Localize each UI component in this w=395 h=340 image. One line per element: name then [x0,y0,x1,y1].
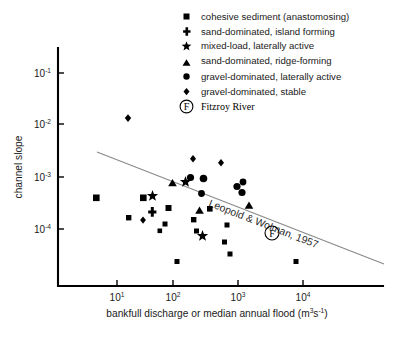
y-axis-title: channel slope [13,135,24,198]
data-point-square [163,222,168,227]
data-point-f-letter: F [269,228,275,239]
data-point-star [147,190,158,201]
data-point-square [222,240,227,245]
legend-label: sand-dominated, ridge-forming [201,55,332,66]
y-tick-label: 10-1 [34,67,51,79]
legend-label: gravel-dominated, stable [201,86,306,97]
legend-label: gravel-dominated, laterally active [201,71,341,82]
x-axis-title: bankfull discharge or median annual floo… [106,307,327,319]
x-tick-label: 101 [110,291,125,303]
data-point-square [294,259,299,264]
data-point-circle [238,189,245,196]
figure-panel: cohesive sediment (anastomosing) sand-do… [0,0,395,340]
y-tick-label: 10-4 [34,223,51,235]
triangle-icon [183,59,191,66]
legend-item-fitzroy-river: F Fitzroy River [180,100,255,113]
series-gravel-laterally-active [187,174,247,197]
data-point-square [194,229,199,234]
plus-icon [183,27,190,36]
diamond-icon [184,88,190,95]
y-tick-label: 10-3 [34,171,51,183]
data-point-square [158,229,163,234]
reference-line-group: Leopold & Wolman, 1957 [97,152,384,264]
data-point-square [207,206,213,212]
data-point-circle [233,183,240,190]
x-axis-tick-labels: 101 102 103 104 [110,291,311,303]
data-point-diamond [125,114,131,122]
data-point-square [166,205,172,211]
square-icon [184,14,190,20]
data-point-circle [240,179,247,186]
x-tick-label: 104 [296,291,311,303]
chart-svg: cohesive sediment (anastomosing) sand-do… [0,0,395,340]
legend-item-gravel-stable: gravel-dominated, stable [184,86,307,97]
circle-icon [183,73,189,79]
data-point-circle [187,174,194,181]
data-point-square [126,215,131,220]
circled-f-letter: F [184,101,190,112]
legend-label: cohesive sediment (anastomosing) [201,11,349,22]
data-point-triangle [195,207,204,214]
series-sand-island-forming [148,207,156,217]
legend-item-sand-island-forming: sand-dominated, island forming [183,26,335,37]
data-point-diamond [140,217,146,224]
data-point-square [140,195,147,202]
data-point-square [225,223,230,228]
data-point-square [191,217,196,222]
legend-item-cohesive-sediment: cohesive sediment (anastomosing) [184,11,350,22]
axis-frame [58,48,383,286]
x-tick-label: 103 [231,291,246,303]
y-axis-tick-labels: 10-1 10-2 10-3 10-4 [34,67,51,235]
data-point-triangle [245,202,254,209]
data-point-diamond [190,155,196,162]
legend-label: sand-dominated, island forming [201,26,335,37]
data-point-square [93,195,100,202]
legend-item-gravel-laterally-active: gravel-dominated, laterally active [183,71,341,82]
data-point-square [175,259,180,264]
y-tick-label: 10-2 [34,118,51,130]
data-markers: F [93,114,299,264]
legend-label: Fitzroy River [201,101,255,112]
star-icon [182,41,192,50]
legend-label: mixed-load, laterally active [201,40,314,51]
legend-item-sand-ridge-forming: sand-dominated, ridge-forming [183,55,332,66]
data-point-square [228,252,233,257]
data-point-circle [198,190,205,197]
data-point-plus [148,207,156,217]
x-tick-label: 102 [166,291,181,303]
data-point-circle [200,175,208,183]
legend-item-mixed-load: mixed-load, laterally active [182,40,314,51]
data-point-diamond [218,159,224,166]
axes: 10-1 10-2 10-3 10-4 101 102 103 104 bank… [13,48,383,319]
legend: cohesive sediment (anastomosing) sand-do… [180,11,349,113]
